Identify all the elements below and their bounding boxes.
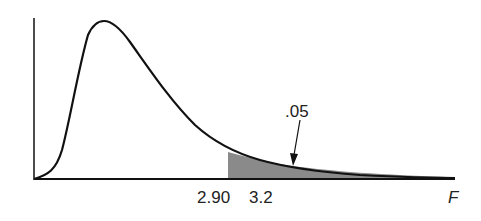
f-distribution-chart: .05 2.90 3.2 F xyxy=(0,0,481,221)
area-label: .05 xyxy=(285,102,309,121)
arrowhead-icon xyxy=(290,153,298,166)
x-axis-label: F xyxy=(448,188,460,207)
shaded-tail-region xyxy=(228,152,455,179)
annotation-arrow xyxy=(294,120,300,155)
tick-label-critical: 2.90 xyxy=(197,188,230,207)
tick-label-observed: 3.2 xyxy=(249,188,273,207)
density-curve xyxy=(34,21,455,179)
